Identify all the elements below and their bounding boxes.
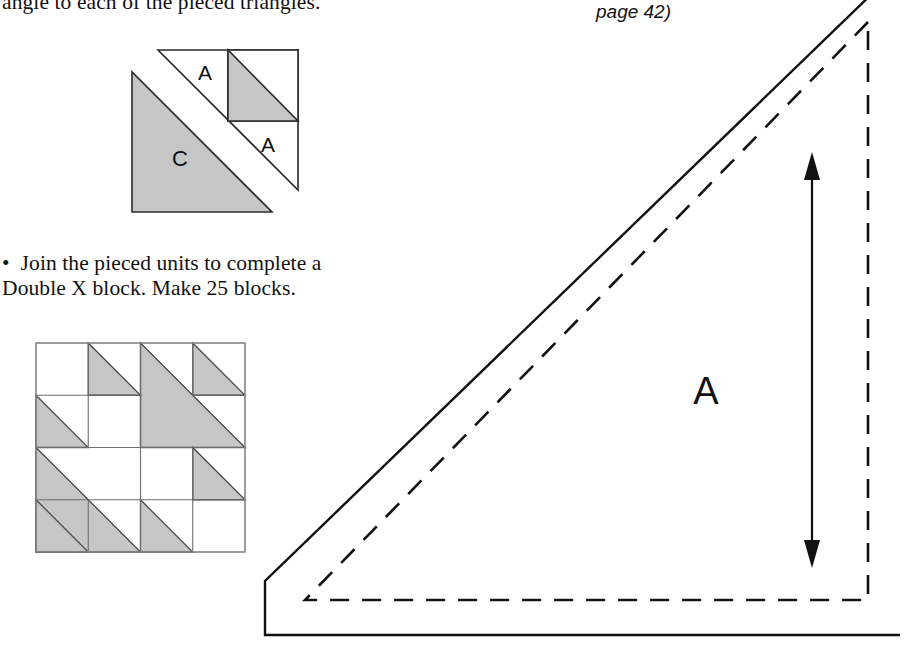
grainline-arrow bbox=[804, 152, 820, 568]
block-hst-r0c1 bbox=[88, 343, 140, 395]
triangle-unit-outline bbox=[158, 50, 298, 190]
instruction-join-text: • Join the pieced units to complete a Do… bbox=[2, 251, 321, 301]
hst-square-outline bbox=[228, 50, 298, 121]
block-large-triangle-lower-left bbox=[36, 448, 141, 553]
triangle-c-label: C bbox=[172, 146, 188, 171]
triangle-a-lower-label: A bbox=[261, 133, 275, 156]
triangle-a-upper-label: A bbox=[198, 61, 212, 84]
block-hst-r0c3 bbox=[193, 343, 245, 395]
instruction-join-line2: Double X block. Make 25 blocks. bbox=[2, 276, 296, 300]
double-x-block-figure bbox=[0, 0, 910, 650]
template-cut-line bbox=[265, 0, 900, 635]
page-reference-text: page 42) bbox=[596, 1, 671, 23]
block-large-triangle-upper-right bbox=[141, 343, 246, 448]
instruction-top-text: angle to each of the pieced triangles. bbox=[2, 0, 320, 15]
template-a-label: A bbox=[693, 370, 719, 412]
block-hst-r2c3 bbox=[193, 448, 245, 500]
template-a-figure: A bbox=[0, 0, 910, 650]
block-hst-r1c0 bbox=[36, 395, 88, 447]
block-outer-border bbox=[36, 343, 245, 552]
hst-shaded-triangle bbox=[228, 50, 298, 121]
page-canvas: angle to each of the pieced triangles. p… bbox=[0, 0, 910, 650]
block-hst-r3c2 bbox=[141, 500, 193, 552]
block-border bbox=[36, 343, 245, 552]
template-seam-line bbox=[305, 22, 868, 600]
block-seam-lines bbox=[36, 343, 245, 552]
triangle-c-shape bbox=[132, 72, 272, 212]
pieced-unit-figure: C A A bbox=[0, 0, 910, 650]
block-hst-r3c0 bbox=[36, 500, 88, 552]
instruction-join-line1: • Join the pieced units to complete a bbox=[2, 251, 321, 275]
